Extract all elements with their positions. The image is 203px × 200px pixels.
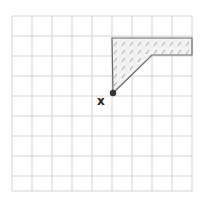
point-label: x [97,95,105,107]
point-marker [110,90,116,96]
